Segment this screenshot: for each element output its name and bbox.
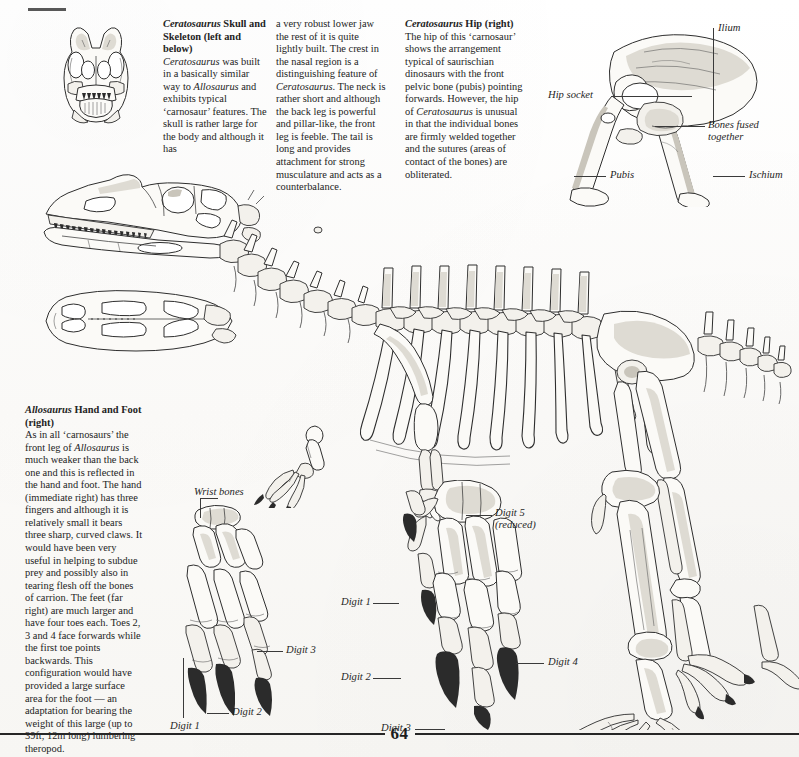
page-number: 64 bbox=[389, 724, 411, 744]
leader-hand-digit-3 bbox=[257, 651, 283, 652]
article-ceratosaurus-hip: Ceratosaurus Hip (right) The hip of this… bbox=[405, 18, 523, 181]
leader-pubis bbox=[574, 176, 606, 177]
article-ceratosaurus-skull-continued: a very robust lower jaw the rest of it i… bbox=[276, 18, 388, 194]
article-body-allosaurus-hand-foot: As in all ‘carnosaurs’ the front leg of … bbox=[25, 429, 143, 755]
leader-wrist-bones-vert bbox=[200, 498, 201, 518]
label-hand-digit-2: Digit 2 bbox=[232, 706, 262, 718]
leader-wrist-bones-horiz bbox=[200, 498, 218, 499]
book-page: Ceratosaurus Skull and Skeleton (left an… bbox=[0, 0, 799, 757]
leader-bones-fused bbox=[655, 126, 705, 127]
figure-allosaurus-hand-large bbox=[178, 500, 303, 725]
figure-allosaurus-foot-and-leg bbox=[556, 470, 756, 730]
article-heading-ceratosaurus-skull: Ceratosaurus Skull and Skeleton (left an… bbox=[163, 18, 269, 56]
leader-hand-digit-1 bbox=[183, 658, 184, 718]
footer-rule-left bbox=[0, 733, 385, 735]
article-heading-ceratosaurus-hip: Ceratosaurus Hip (right) bbox=[405, 18, 523, 31]
top-rule-decoration bbox=[28, 8, 66, 11]
label-pubis: Pubis bbox=[610, 169, 634, 181]
footer-rule-right bbox=[415, 733, 799, 735]
leader-ilium bbox=[713, 28, 714, 124]
figure-allosaurus-hand-small-inset bbox=[243, 422, 329, 508]
leader-foot-digit-2 bbox=[373, 678, 401, 679]
article-allosaurus-hand-foot: Allosaurus Hand and Foot (right) As in a… bbox=[25, 404, 143, 755]
article-body-ceratosaurus-hip: The hip of this ‘carnosaur’ shows the ar… bbox=[405, 31, 523, 182]
label-foot-digit-5-reduced: Digit 5 (reduced) bbox=[495, 507, 559, 530]
figure-ceratosaurus-hip-diagram bbox=[552, 22, 762, 207]
figure-ceratosaurus-skull-front-view bbox=[44, 22, 148, 126]
leader-foot-digit-4 bbox=[516, 663, 544, 664]
label-foot-digit-1: Digit 1 bbox=[341, 596, 371, 608]
label-ischium: Ischium bbox=[749, 169, 783, 181]
label-hand-digit-3: Digit 3 bbox=[286, 644, 316, 656]
label-bones-fused-together: Bones fused together bbox=[708, 119, 774, 142]
leader-hand-digit-2 bbox=[207, 713, 229, 714]
label-foot-digit-2: Digit 2 bbox=[341, 671, 371, 683]
label-foot-digit-4: Digit 4 bbox=[548, 656, 578, 668]
leader-ischium bbox=[713, 176, 745, 177]
page-footer: 64 bbox=[0, 723, 799, 745]
article-heading-allosaurus-hand-foot: Allosaurus Hand and Foot (right) bbox=[25, 404, 143, 429]
leader-foot-digit-5 bbox=[466, 515, 492, 516]
label-wrist-bones: Wrist bones bbox=[194, 486, 244, 498]
article-body-ceratosaurus-skull-col2: a very robust lower jaw the rest of it i… bbox=[276, 18, 388, 194]
label-hip-socket: Hip socket bbox=[548, 89, 593, 101]
label-ilium: Ilium bbox=[718, 22, 740, 34]
leader-hip-socket bbox=[612, 96, 692, 97]
article-ceratosaurus-skull: Ceratosaurus Skull and Skeleton (left an… bbox=[163, 18, 269, 156]
article-body-ceratosaurus-skull-col1: Ceratosaurus was built in a basically si… bbox=[163, 56, 269, 156]
figure-ceratosaurus-skull-top-view bbox=[40, 285, 240, 357]
leader-foot-digit-1 bbox=[373, 603, 399, 604]
